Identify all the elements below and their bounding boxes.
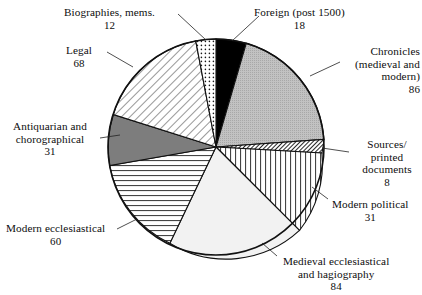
label-biographies-value: 12 bbox=[64, 19, 155, 32]
label-foreign-value: 18 bbox=[254, 19, 345, 32]
label-modern-eccl-line1: Modern ecclesiastical bbox=[6, 222, 105, 234]
label-medieval-ecclesiastical: Medieval ecclesiastical and hagiography … bbox=[283, 255, 389, 293]
label-foreign: Foreign (post 1500) 18 bbox=[254, 6, 345, 31]
label-biographies: Biographies, mems. 12 bbox=[64, 6, 155, 31]
label-chronicles: Chronicles (medieval and modern) 86 bbox=[342, 45, 420, 95]
label-legal: Legal 68 bbox=[66, 44, 92, 69]
leader-sources bbox=[322, 148, 349, 152]
leader-chronicles bbox=[310, 62, 340, 76]
label-antiquarian-chorographical: Antiquarian and chorographical 31 bbox=[2, 120, 98, 158]
label-modern-eccl-value: 60 bbox=[6, 235, 105, 248]
label-medieval-eccl-line1: Medieval ecclesiastical bbox=[283, 255, 389, 267]
pie-chart-figure: Biographies, mems. 12 Foreign (post 1500… bbox=[0, 0, 422, 295]
label-modern-ecclesiastical: Modern ecclesiastical 60 bbox=[6, 222, 105, 247]
label-antiquarian-line2: chorographical bbox=[16, 133, 85, 145]
label-chronicles-line2: (medieval and bbox=[355, 58, 420, 70]
label-sources-line2: printed bbox=[371, 151, 403, 163]
label-biographies-line1: Biographies, mems. bbox=[64, 6, 155, 18]
label-antiquarian-value: 31 bbox=[2, 145, 98, 158]
label-medieval-eccl-value: 84 bbox=[283, 280, 389, 293]
label-chronicles-line1: Chronicles bbox=[371, 45, 420, 57]
label-modern-political-value: 31 bbox=[332, 211, 408, 224]
label-medieval-eccl-line2: and hagiography bbox=[298, 268, 374, 280]
label-chronicles-value: 86 bbox=[342, 83, 420, 96]
label-antiquarian-line1: Antiquarian and bbox=[13, 120, 87, 132]
label-modern-political: Modern political 31 bbox=[332, 198, 408, 223]
label-chronicles-line3: modern) bbox=[381, 70, 420, 82]
label-sources-line3: documents bbox=[362, 163, 411, 175]
label-foreign-line1: Foreign (post 1500) bbox=[254, 6, 345, 18]
label-sources-line1: Sources/ bbox=[367, 138, 406, 150]
label-sources-value: 8 bbox=[354, 176, 420, 189]
label-modern-political-line1: Modern political bbox=[332, 198, 408, 210]
label-legal-value: 68 bbox=[66, 57, 92, 70]
leader-biographies bbox=[178, 14, 206, 40]
label-legal-line1: Legal bbox=[66, 44, 92, 56]
leader-modern-eccl bbox=[117, 219, 137, 229]
label-sources-printed-documents: Sources/ printed documents 8 bbox=[354, 138, 420, 188]
leader-legal bbox=[107, 52, 133, 67]
